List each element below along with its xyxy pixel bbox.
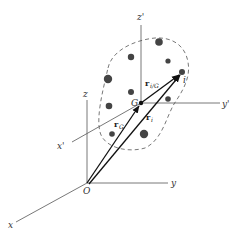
particle-i-label: i <box>183 75 186 85</box>
y-prime-label: y' <box>221 99 230 109</box>
particle <box>155 38 163 46</box>
particle <box>165 96 171 102</box>
particle <box>128 89 134 95</box>
vector-rG <box>87 106 139 183</box>
x-prime-label: x' <box>57 141 65 151</box>
ri-G-label: r i/G <box>145 78 159 89</box>
G-label: G <box>131 98 138 108</box>
z-label: z <box>82 89 88 99</box>
rG-label: r G <box>114 119 124 130</box>
particle <box>165 58 170 63</box>
particle <box>140 130 148 138</box>
particle <box>128 54 134 60</box>
svg-text:i/G: i/G <box>150 82 159 89</box>
particle-system-diagram: z' y' x' z y x O G i r G r i r i/G <box>0 0 232 231</box>
x-label: x <box>8 220 13 230</box>
svg-text:i: i <box>151 116 153 123</box>
particle <box>106 103 113 110</box>
particle <box>109 131 115 137</box>
particle <box>104 75 112 83</box>
origin-label: O <box>83 186 91 196</box>
center-of-mass-G <box>139 101 143 105</box>
x-prime-axis <box>72 103 141 142</box>
y-label: y <box>170 178 177 188</box>
z-prime-label: z' <box>136 12 144 22</box>
svg-text:G: G <box>119 123 124 130</box>
x-axis <box>16 183 87 222</box>
ri-label: r i <box>146 112 153 123</box>
